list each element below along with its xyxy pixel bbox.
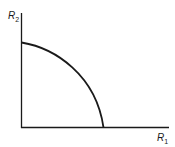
x-axis-label-subscript: 1 [164, 138, 168, 145]
boundary-curve [22, 43, 104, 128]
y-axis-label: R2 [8, 11, 19, 23]
diagram-canvas [0, 0, 175, 147]
x-axis-label: R1 [157, 133, 168, 145]
y-axis-label-subscript: 2 [15, 16, 19, 23]
